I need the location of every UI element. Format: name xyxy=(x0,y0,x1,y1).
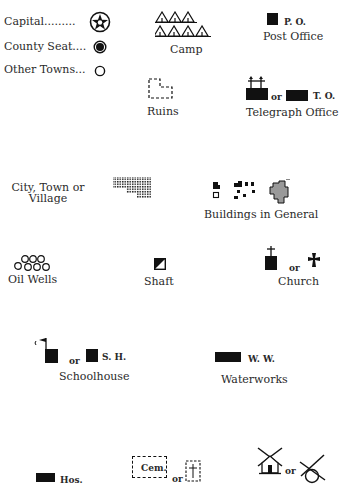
church-label: Church xyxy=(278,276,319,288)
flag-building-icon xyxy=(34,338,62,364)
cross-building-icon xyxy=(265,246,277,270)
capital-label: Capital......... xyxy=(4,16,76,28)
black-rectangle-icon xyxy=(286,90,308,101)
schoolhouse-label: Schoolhouse xyxy=(59,371,130,383)
dashed-outline-icon xyxy=(147,78,175,100)
other-towns-label: Other Towns... xyxy=(4,64,86,76)
hospital-abbr: Hos. xyxy=(60,475,83,485)
ruins-label: Ruins xyxy=(147,106,179,118)
county-seat-label: County Seat.... xyxy=(4,41,86,53)
camp-label: Camp xyxy=(170,44,202,56)
post-office-label: Post Office xyxy=(263,31,323,43)
crosshatched-block-icon xyxy=(112,176,152,200)
waterworks-abbr: W. W. xyxy=(248,354,275,364)
schoolhouse-or: or xyxy=(69,356,80,366)
half-filled-square-icon xyxy=(154,258,166,270)
schoolhouse-abbr: S. H. xyxy=(102,352,126,362)
open-circle-icon xyxy=(94,65,106,77)
cemetery-or: or xyxy=(172,474,183,484)
black-square-icon xyxy=(86,349,98,362)
black-square-icon xyxy=(267,13,278,25)
windmill-or: or xyxy=(285,466,296,476)
filled-dot-in-circle-icon xyxy=(93,40,107,54)
dashed-box-cross-icon xyxy=(185,460,201,482)
post-office-abbr: P. O. xyxy=(284,17,306,27)
tents-icon xyxy=(155,11,217,41)
waterworks-label: Waterworks xyxy=(221,374,288,386)
building-with-poles-icon xyxy=(246,76,268,100)
cross-icon xyxy=(306,252,322,268)
church-or: or xyxy=(289,263,300,273)
black-rectangle-icon xyxy=(36,473,55,482)
star-in-circle-icon xyxy=(89,11,111,33)
black-rectangle-icon xyxy=(215,352,241,362)
telegraph-or: or xyxy=(271,92,282,102)
buildings-label: Buildings in General xyxy=(204,209,318,221)
telegraph-abbr: T. O. xyxy=(313,91,335,101)
shaft-label: Shaft xyxy=(144,276,174,288)
cemetery-abbr: Cem. xyxy=(141,463,167,473)
telegraph-office-label: Telegraph Office xyxy=(246,107,339,119)
oil-wells-label: Oil Wells xyxy=(8,274,57,286)
circles-cluster-icon xyxy=(14,254,54,274)
city-label-line2: Village xyxy=(8,193,88,205)
windmill-house-icon xyxy=(256,447,284,475)
windmill-icon xyxy=(298,454,326,484)
